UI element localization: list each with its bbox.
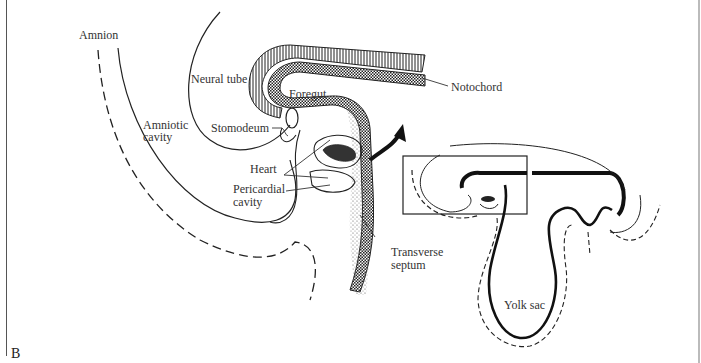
label-amnion: Amnion: [79, 29, 118, 42]
diagram-drawing: [0, 0, 701, 363]
yolk-sac: [489, 185, 612, 338]
inset-box: [403, 156, 527, 214]
pericardial-outline: [270, 130, 300, 223]
leader-heart: [284, 140, 330, 178]
label-notochord: Notochord: [451, 81, 502, 94]
label-heart: Heart: [250, 163, 277, 176]
label-pericardial-cavity-line2: cavity: [233, 196, 262, 209]
label-neural-tube: Neural tube: [191, 73, 247, 86]
leader-pericardial: [286, 185, 330, 191]
inset-gut-band: [462, 173, 527, 188]
stomodeum-loop: [286, 108, 298, 128]
amnion-dashed-line: [98, 50, 315, 300]
label-foregut: Foregut: [289, 88, 326, 101]
panel-letter: B: [11, 347, 20, 360]
embryo-sagittal-diagram: Amnion Neural tube Notochord Foregut Amn…: [0, 0, 701, 363]
heart-tube: [323, 145, 356, 162]
label-amniotic-cavity-line2: cavity: [143, 131, 172, 144]
label-yolk-sac: Yolk sac: [504, 299, 545, 312]
leader-notochord: [422, 78, 448, 86]
label-transverse-septum-line2: septum: [391, 259, 426, 272]
label-stomodeum: Stomodeum: [211, 122, 269, 135]
